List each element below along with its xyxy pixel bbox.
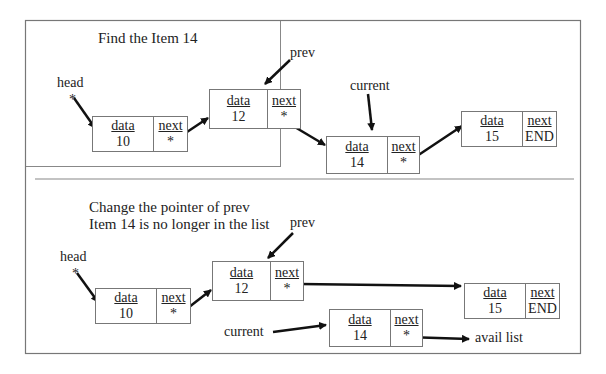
- top-head-label: head: [57, 76, 83, 90]
- next-label: next: [161, 290, 185, 306]
- bottom-node-15: data15 nextEND: [464, 283, 560, 319]
- avail-list-label: avail list: [475, 331, 523, 345]
- bottom-current-label: current: [224, 325, 264, 339]
- node-value: 12: [235, 281, 249, 297]
- top-node-10: data10 next*: [92, 116, 188, 152]
- node-value: 14: [353, 328, 367, 344]
- next-label: next: [275, 265, 299, 281]
- bottom-title-line1: Change the pointer of prev: [89, 200, 250, 215]
- next-value: *: [281, 109, 288, 125]
- node-value: 15: [485, 129, 499, 145]
- node-value: 14: [350, 155, 364, 171]
- top-node-15: data15 nextEND: [461, 111, 557, 147]
- data-label: data: [230, 265, 253, 281]
- top-node-12: data12 next*: [209, 89, 301, 129]
- next-label: next: [530, 285, 554, 301]
- top-prev-label: prev: [290, 46, 315, 60]
- next-value: *: [400, 155, 407, 171]
- next-label: next: [527, 113, 551, 129]
- next-value: *: [170, 306, 177, 322]
- data-label: data: [345, 139, 368, 155]
- top-title: Find the Item 14: [98, 31, 198, 46]
- next-value: *: [284, 281, 291, 297]
- bottom-node-14: data14 next*: [329, 309, 423, 347]
- bottom-prev-label: prev: [290, 216, 315, 230]
- data-label: data: [114, 290, 137, 306]
- node-value: 10: [119, 306, 133, 322]
- node-value: 12: [232, 109, 246, 125]
- bottom-node-12: data12 next*: [212, 261, 304, 301]
- data-label: data: [348, 312, 371, 328]
- next-value: *: [403, 328, 410, 344]
- next-label: next: [272, 93, 296, 109]
- data-label: data: [483, 285, 506, 301]
- next-label: next: [391, 139, 415, 155]
- top-head-star: *: [69, 93, 76, 107]
- top-node-14: data14 next*: [326, 136, 420, 174]
- data-label: data: [480, 113, 503, 129]
- next-label: next: [158, 118, 182, 134]
- next-value: *: [167, 134, 174, 150]
- data-label: data: [111, 118, 134, 134]
- next-value: END: [528, 301, 557, 317]
- data-label: data: [227, 93, 250, 109]
- top-current-label: current: [350, 79, 390, 93]
- bottom-head-label: head: [60, 250, 86, 264]
- bottom-title-line2: Item 14 is no longer in the list: [89, 217, 269, 232]
- node-value: 15: [488, 301, 502, 317]
- next-value: END: [525, 129, 554, 145]
- node-value: 10: [116, 134, 130, 150]
- bottom-head-star: *: [72, 267, 79, 281]
- bottom-node-10: data10 next*: [95, 288, 191, 324]
- next-label: next: [394, 312, 418, 328]
